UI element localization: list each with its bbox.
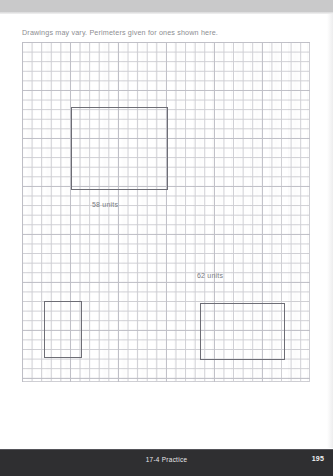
sheet-right-edge [327,14,333,448]
rectangle-bottom-right [200,303,285,360]
instruction-text: Drawings may vary. Perimeters given for … [22,28,312,37]
footer-lesson-title: 17-4 Practice [0,456,333,463]
rectangle-bottom-left [44,301,82,358]
perimeter-label-58: 58 units [92,201,118,208]
footer-page-number: 195 [312,455,324,462]
rectangle-top [71,107,168,190]
footer-bar-highlight [0,449,333,450]
worksheet-page: Drawings may vary. Perimeters given for … [0,0,333,476]
perimeter-label-62: 62 units [197,272,223,279]
